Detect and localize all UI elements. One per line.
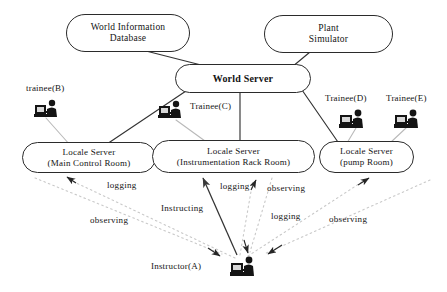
link-instructor-logging-instrumentation: [240, 180, 253, 255]
link-trainee-b-to-main-control: [46, 118, 70, 145]
node-line: Locale Server: [340, 146, 393, 157]
edge-label-observing-left: observing: [90, 215, 128, 225]
node-line: Locale Server: [63, 147, 116, 158]
arrow-logging-pump: [358, 178, 369, 185]
locale-server-pump-room-node[interactable]: Locale Server (pump Room): [319, 141, 414, 173]
locale-server-main-control-room-node[interactable]: Locale Server (Main Control Room): [22, 142, 156, 173]
arrow-observing-to-instructor-mid: [244, 240, 248, 253]
instructor-a-workstation-icon: [230, 255, 260, 278]
trainee-b-workstation-icon: [34, 98, 62, 119]
arrow-observing-to-instructor-right: [268, 245, 282, 254]
edge-label-observing-mid: observing: [267, 183, 305, 193]
arrow-logging-instrumentation: [251, 180, 256, 190]
edge-label-logging-right: logging: [271, 211, 301, 221]
edge-label-instructing: Instructing: [161, 203, 203, 213]
edge-label-logging-mid: logging: [220, 181, 250, 191]
trainee-c-label: Trainee(C): [190, 101, 231, 111]
world-server-node[interactable]: World Server: [175, 64, 311, 93]
trainee-c-workstation-icon: [158, 99, 186, 120]
network-topology-diagram: World Information Database Plant Simulat…: [0, 0, 447, 292]
trainee-d-label: Trainee(D): [325, 93, 367, 103]
locale-server-instrumentation-rack-room-node[interactable]: Locale Server (Instrumentation Rack Room…: [152, 140, 315, 173]
edge-label-logging-left: logging: [107, 180, 137, 190]
node-line: Plant: [318, 23, 339, 34]
world-information-database-node[interactable]: World Information Database: [66, 14, 190, 52]
node-line: (Instrumentation Rack Room): [177, 157, 290, 168]
trainee-e-workstation-icon: [394, 108, 424, 130]
trainee-b-label: trainee(B): [26, 83, 64, 93]
node-line: (pump Room): [340, 157, 393, 168]
trainee-d-workstation-icon: [339, 108, 369, 130]
node-line: World Information: [91, 22, 166, 33]
plant-simulator-node[interactable]: Plant Simulator: [264, 15, 393, 53]
node-line: Database: [110, 33, 146, 44]
trainee-e-label: Trainee(E): [386, 93, 427, 103]
link-trainee-c-to-instrumentation: [176, 120, 205, 141]
node-line: World Server: [213, 73, 273, 85]
edge-label-observing-right: observing: [329, 214, 367, 224]
node-line: (Main Control Room): [48, 158, 131, 169]
instructor-a-label: Instructor(A): [151, 261, 201, 271]
node-line: Locale Server: [207, 146, 260, 157]
node-line: Simulator: [309, 34, 348, 45]
arrow-logging-main-control: [67, 177, 76, 183]
